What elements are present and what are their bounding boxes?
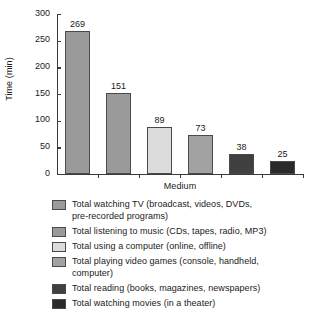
x-axis-tick-mark	[180, 174, 181, 178]
bar[interactable]	[270, 161, 295, 174]
bar-value-label: 25	[277, 149, 287, 159]
legend-item-label: Total using a computer (online, offline)	[72, 240, 226, 252]
legend-item[interactable]: Total watching movies (in a theater)	[0, 297, 315, 309]
legend-swatch-icon	[52, 227, 66, 237]
y-axis-tick-label: 100	[35, 114, 50, 124]
y-axis-tick-mark	[57, 174, 61, 175]
bar-value-label: 151	[111, 81, 126, 91]
bar-value-label: 89	[154, 115, 164, 125]
legend-swatch-icon	[52, 299, 66, 309]
bar-series: 26915189733825	[57, 14, 303, 174]
bar-slot[interactable]: 38	[229, 14, 254, 174]
legend-item[interactable]: Total reading (books, magazines, newspap…	[0, 282, 315, 294]
x-axis-tick-mark	[262, 174, 263, 178]
legend-item-label: Total watching TV (broadcast, videos, DV…	[72, 198, 252, 222]
x-axis-tick-mark	[139, 174, 140, 178]
legend-item[interactable]: Total listening to music (CDs, tapes, ra…	[0, 225, 315, 237]
legend-swatch-icon	[52, 242, 66, 252]
bar-chart-figure: Time (min) 300250200150100500 2691518973…	[0, 0, 315, 331]
x-axis-tick-mark	[303, 174, 304, 178]
chart-plot-region: Time (min) 300250200150100500 2691518973…	[0, 0, 315, 196]
plot-box: 300250200150100500 26915189733825	[57, 14, 303, 174]
chart-legend: Total watching TV (broadcast, videos, DV…	[0, 198, 315, 312]
x-axis-title: Medium	[57, 181, 303, 191]
x-axis-tick-mark	[221, 174, 222, 178]
legend-item-label: Total listening to music (CDs, tapes, ra…	[72, 225, 267, 237]
legend-item[interactable]: Total using a computer (online, offline)	[0, 240, 315, 252]
y-axis-tick-label: 250	[35, 34, 50, 44]
legend-item-label: Total watching movies (in a theater)	[72, 297, 215, 309]
bar[interactable]	[106, 93, 131, 174]
y-axis-tick-label: 300	[35, 8, 50, 18]
y-axis-tick-label: 200	[35, 61, 50, 71]
legend-swatch-icon	[52, 200, 66, 210]
bar-value-label: 38	[236, 142, 246, 152]
legend-item-label: Total reading (books, magazines, newspap…	[72, 282, 260, 294]
y-axis-tick: 50	[11, 147, 57, 148]
bar[interactable]	[65, 31, 90, 174]
bar-slot[interactable]: 73	[188, 14, 213, 174]
y-axis-tick: 0	[11, 174, 57, 175]
bar-slot[interactable]: 269	[65, 14, 90, 174]
bar-slot[interactable]: 25	[270, 14, 295, 174]
bar[interactable]	[147, 127, 172, 174]
y-axis-tick: 150	[11, 94, 57, 95]
y-axis-tick: 300	[11, 14, 57, 15]
legend-item[interactable]: Total watching TV (broadcast, videos, DV…	[0, 198, 315, 222]
bar-value-label: 73	[195, 123, 205, 133]
y-axis-tick: 100	[11, 121, 57, 122]
bar-slot[interactable]: 151	[106, 14, 131, 174]
bar-value-label: 269	[70, 19, 85, 29]
legend-item-label: Total playing video games (console, hand…	[72, 255, 259, 279]
y-axis-tick-label: 0	[45, 168, 50, 178]
legend-swatch-icon	[52, 257, 66, 267]
y-axis-tick-label: 150	[35, 88, 50, 98]
y-axis-tick-label: 50	[40, 141, 50, 151]
y-axis-tick: 200	[11, 67, 57, 68]
bar[interactable]	[188, 135, 213, 174]
y-axis-title: Time (min)	[4, 39, 14, 119]
x-axis-tick-mark	[98, 174, 99, 178]
legend-item[interactable]: Total playing video games (console, hand…	[0, 255, 315, 279]
legend-swatch-icon	[52, 284, 66, 294]
y-axis-tick: 250	[11, 41, 57, 42]
bar[interactable]	[229, 154, 254, 174]
bar-slot[interactable]: 89	[147, 14, 172, 174]
